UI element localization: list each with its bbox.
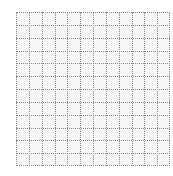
grid-line-horizontal [16, 89, 170, 90]
grid-line-horizontal [16, 102, 170, 103]
grid-line-horizontal [16, 12, 170, 13]
grid-line-horizontal [16, 165, 170, 166]
grid-line-horizontal [16, 38, 170, 39]
dotted-grid [16, 12, 170, 166]
grid-line-horizontal [16, 115, 170, 116]
grid-line-horizontal [16, 153, 170, 154]
grid-line-horizontal [16, 128, 170, 129]
grid-line-horizontal [16, 140, 170, 141]
grid-line-horizontal [16, 63, 170, 64]
grid-line-horizontal [16, 51, 170, 52]
grid-line-horizontal [16, 25, 170, 26]
grid-line-horizontal [16, 76, 170, 77]
